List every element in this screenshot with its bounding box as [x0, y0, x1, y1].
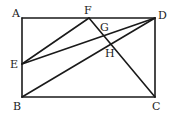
- label-D: D: [158, 9, 167, 22]
- geometry-diagram: A B C D E F G H: [0, 0, 170, 114]
- label-G: G: [100, 21, 109, 34]
- label-E: E: [10, 58, 18, 71]
- label-B: B: [13, 100, 21, 113]
- label-H: H: [105, 47, 115, 60]
- segments: [22, 18, 155, 97]
- label-C: C: [152, 100, 160, 113]
- label-F: F: [84, 4, 92, 17]
- label-A: A: [11, 7, 21, 20]
- segment-EF: [22, 18, 89, 64]
